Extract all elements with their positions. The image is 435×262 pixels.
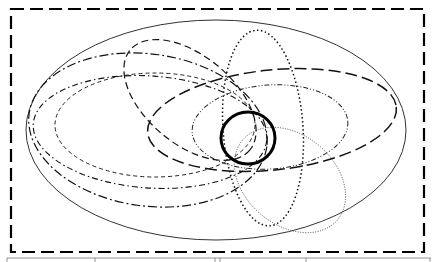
dashed-frame xyxy=(11,9,424,252)
bottom-strip xyxy=(7,258,431,262)
overlapping-ellipses-diagram xyxy=(0,0,435,262)
dashed-tilted-ellipse xyxy=(102,16,278,184)
ellipse-group xyxy=(19,16,406,254)
thin-dotted-lower-ellipse xyxy=(214,106,367,255)
longdash-right-ellipse xyxy=(142,57,401,183)
outer-solid-ellipse xyxy=(26,20,406,240)
